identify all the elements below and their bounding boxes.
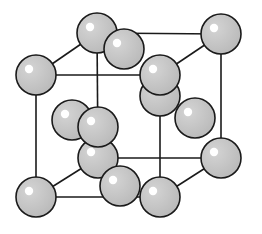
atom-front-top-right — [140, 55, 180, 95]
atom-top-face-center — [104, 29, 144, 69]
atom-highlight — [184, 108, 192, 116]
lattice-atoms — [16, 13, 241, 217]
atom-highlight — [113, 39, 121, 47]
atom-front-bottom-right — [140, 177, 180, 217]
atom-front-bottom-left — [16, 177, 56, 217]
atom-highlight — [87, 117, 95, 125]
atom-highlight — [25, 65, 33, 73]
atom-highlight — [210, 148, 218, 156]
atom-highlight — [61, 110, 69, 118]
atom-highlight — [109, 176, 117, 184]
atom-highlight — [25, 187, 33, 195]
atom-right-face-center — [175, 98, 215, 138]
atom-highlight — [87, 148, 95, 156]
fcc-unit-cell-diagram — [0, 0, 262, 234]
atom-front-face-center — [78, 107, 118, 147]
atom-highlight — [86, 23, 94, 31]
atom-bottom-face-center — [100, 166, 140, 206]
atom-highlight — [210, 24, 218, 32]
atom-highlight — [149, 187, 157, 195]
atom-front-top-left — [16, 55, 56, 95]
atom-highlight — [149, 65, 157, 73]
atom-back-bottom-right — [201, 138, 241, 178]
atom-back-top-right — [201, 14, 241, 54]
